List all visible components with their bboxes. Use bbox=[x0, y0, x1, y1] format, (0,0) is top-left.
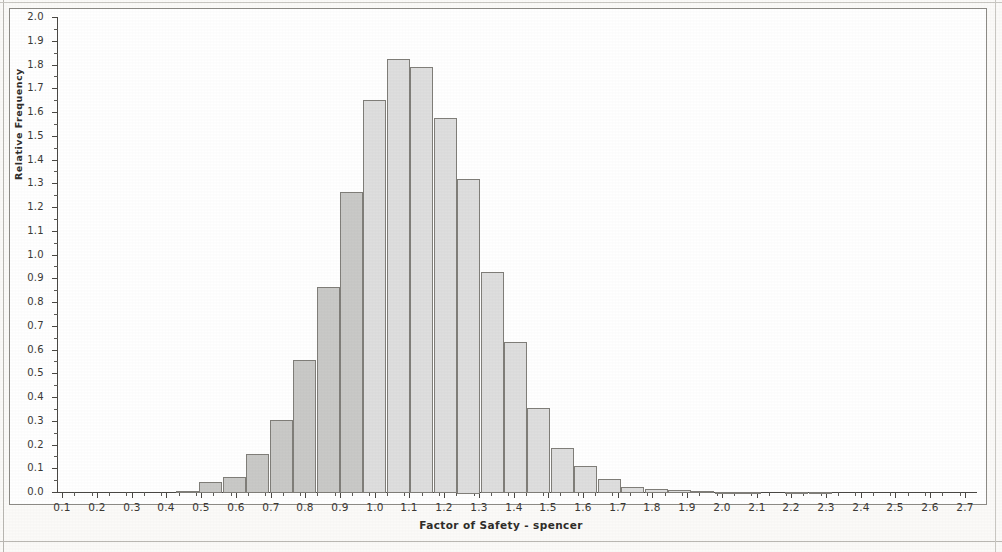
page-border-bottom bbox=[0, 541, 1002, 542]
chart-plot-panel bbox=[9, 8, 987, 505]
y-axis-title: Relative Frequency bbox=[13, 10, 24, 180]
page-border-right bbox=[995, 0, 996, 552]
x-axis-title: Factor of Safety - spencer bbox=[0, 519, 1002, 531]
page-border-top bbox=[0, 2, 1002, 3]
histogram-screenshot: 0.00.10.20.30.40.50.60.70.80.91.01.11.21… bbox=[0, 0, 1002, 552]
page-border-left bbox=[3, 0, 4, 552]
